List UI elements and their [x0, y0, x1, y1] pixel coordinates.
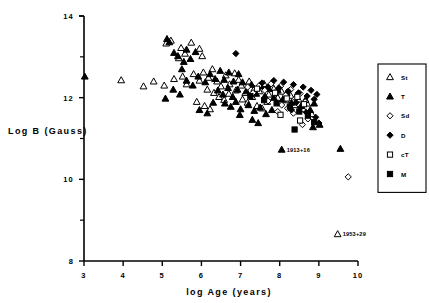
- data-point: [237, 106, 244, 112]
- legend-label-M: M: [401, 171, 406, 178]
- data-point: [178, 44, 185, 50]
- data-point: [200, 69, 207, 75]
- data-point: [189, 82, 196, 88]
- data-point: [188, 39, 195, 45]
- x-tick-label: 7: [238, 271, 243, 280]
- legend-marker-M: [387, 171, 392, 176]
- chart-canvas: 1412108345678910log Age (years)Log B (Ga…: [0, 0, 429, 303]
- data-point: [217, 67, 224, 73]
- annotation-label: 1953+29: [343, 231, 366, 237]
- data-point: [248, 93, 253, 98]
- data-point: [178, 66, 185, 72]
- data-point: [225, 69, 232, 75]
- data-point: [312, 120, 317, 125]
- data-point: [233, 50, 239, 56]
- x-tick-label: 9: [316, 271, 321, 280]
- data-point: [272, 90, 277, 95]
- legend-label-cT: cT: [401, 151, 409, 158]
- data-point: [295, 94, 300, 99]
- legend-label-Sd: Sd: [401, 112, 410, 119]
- annotation-label: 1913+16: [287, 147, 310, 153]
- data-point: [287, 104, 292, 109]
- x-tick-label: 3: [81, 271, 86, 280]
- data-point: [162, 95, 169, 101]
- data-point: [236, 111, 243, 117]
- data-point: [161, 82, 168, 88]
- legend-marker-cT: [387, 152, 392, 157]
- data-point: [345, 174, 351, 180]
- legend-label-St: St: [401, 74, 408, 81]
- data-point: [171, 75, 178, 81]
- y-tick-label: 10: [63, 175, 74, 184]
- annotations: 1913+161953+29: [278, 146, 366, 237]
- annotation-marker: [278, 146, 285, 152]
- x-tick-label: 6: [199, 271, 204, 280]
- x-tick-label: 4: [120, 271, 125, 280]
- data-point: [201, 102, 208, 108]
- data-point: [204, 86, 211, 92]
- data-point: [278, 112, 283, 117]
- data-point: [249, 116, 256, 122]
- data-point: [292, 127, 297, 132]
- annotation-marker: [334, 231, 341, 237]
- y-tick-label: 8: [69, 257, 74, 266]
- legend: StTSdDcTM: [378, 64, 426, 192]
- legend-label-D: D: [401, 132, 406, 139]
- data-point: [81, 73, 88, 79]
- x-axis-title: log Age (years): [186, 287, 272, 297]
- data-point: [300, 84, 306, 90]
- scatter-plot-figure: 1412108345678910log Age (years)Log B (Ga…: [0, 0, 429, 303]
- data-point: [170, 86, 177, 92]
- legend-label-T: T: [401, 93, 405, 100]
- data-point: [140, 83, 147, 89]
- data-point: [210, 99, 217, 105]
- data-point: [254, 86, 259, 91]
- data-point: [263, 111, 270, 117]
- x-tick-label: 8: [277, 271, 282, 280]
- y-tick-label: 12: [63, 94, 74, 103]
- x-tick-label: 5: [160, 271, 165, 280]
- y-axis-title: Log B (Gauss): [8, 126, 88, 136]
- data-point: [193, 98, 200, 104]
- data-point: [297, 109, 302, 114]
- data-point: [179, 73, 186, 79]
- data-point: [177, 91, 184, 97]
- data-point: [190, 71, 197, 77]
- x-tick-label: 10: [353, 271, 364, 280]
- data-point: [239, 96, 246, 102]
- data-point: [305, 113, 310, 118]
- data-point: [199, 53, 206, 59]
- data-point: [274, 101, 279, 106]
- y-tick-label: 14: [63, 12, 74, 21]
- data-point: [150, 78, 157, 84]
- data-point: [118, 77, 125, 83]
- data-point: [261, 98, 266, 103]
- data-point: [301, 102, 306, 107]
- data-point: [337, 145, 344, 151]
- data-point: [284, 96, 289, 101]
- data-point: [297, 118, 302, 123]
- data-point: [308, 87, 314, 93]
